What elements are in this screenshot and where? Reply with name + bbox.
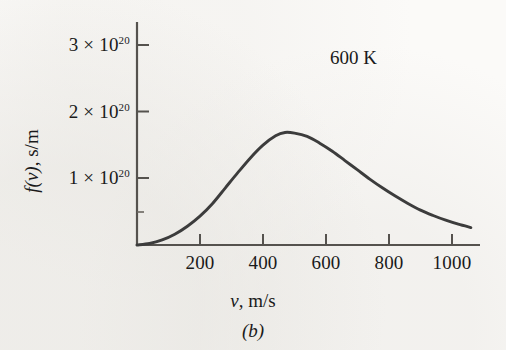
x-axis-title-variable: v bbox=[230, 290, 238, 311]
x-axis-tick-marks bbox=[200, 234, 452, 245]
y-axis-tick-label: 2 × 1020 bbox=[30, 101, 130, 123]
y-axis-title: f(v), s/m bbox=[21, 101, 43, 221]
y-axis-title-units: , s/m bbox=[21, 129, 42, 166]
x-axis-tick-label: 400 bbox=[248, 252, 277, 274]
x-axis-title: v, m/s bbox=[0, 290, 506, 312]
y-axis-tick-marks bbox=[137, 45, 149, 212]
panel-caption: (b) bbox=[0, 320, 506, 342]
y-axis-tick-label: 1 × 1020 bbox=[30, 167, 130, 189]
y-axis-title-variable: f(v) bbox=[21, 166, 42, 192]
x-axis-tick-label: 200 bbox=[185, 252, 214, 274]
x-axis-title-units: , m/s bbox=[239, 290, 276, 311]
maxwell-boltzmann-figure: 1 × 10202 × 10203 × 1020 200400600800100… bbox=[0, 0, 506, 350]
x-axis-tick-label: 600 bbox=[311, 252, 340, 274]
x-axis-tick-label: 1000 bbox=[433, 252, 472, 274]
distribution-curve bbox=[137, 132, 471, 245]
x-axis-tick-label: 800 bbox=[374, 252, 403, 274]
temperature-annotation: 600 K bbox=[330, 47, 377, 69]
y-axis-tick-label: 3 × 1020 bbox=[30, 34, 130, 56]
